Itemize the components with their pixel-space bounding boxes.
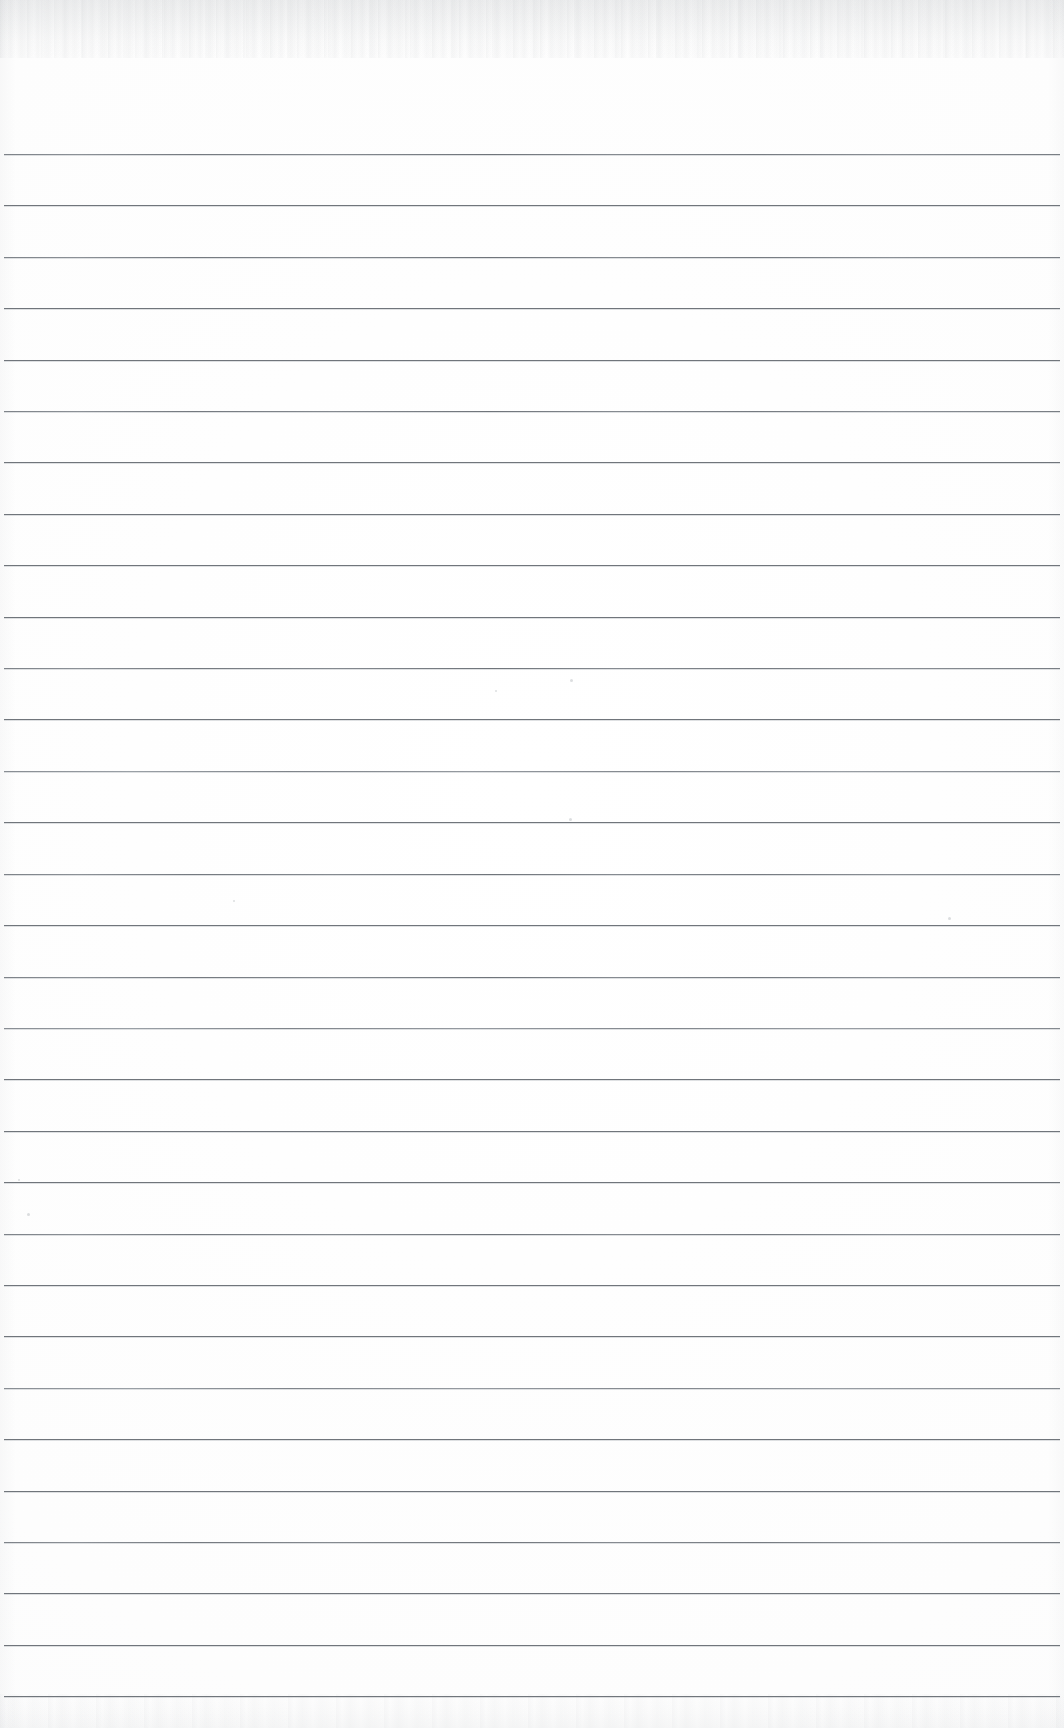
ruled-line [4, 257, 1060, 258]
ruled-line [4, 411, 1060, 412]
ruled-line [4, 308, 1060, 309]
ruled-line [4, 1079, 1060, 1080]
ruled-line [4, 1439, 1060, 1440]
ruled-line [4, 1131, 1060, 1132]
scanned-page [0, 0, 1064, 1728]
ruled-line [4, 154, 1060, 155]
ruled-line [4, 514, 1060, 515]
ruled-line [4, 1696, 1060, 1697]
ruled-line [4, 1182, 1060, 1183]
ruled-line [4, 1542, 1060, 1543]
ruled-line [4, 1234, 1060, 1235]
ruled-line [4, 1028, 1060, 1029]
ruled-line [4, 360, 1060, 361]
ruled-line [4, 977, 1060, 978]
ruled-line [4, 565, 1060, 566]
ruled-line [4, 462, 1060, 463]
ruled-line [4, 925, 1060, 926]
ruled-line [4, 719, 1060, 720]
ruled-line [4, 1491, 1060, 1492]
ruled-line [4, 617, 1060, 618]
ruled-line [4, 668, 1060, 669]
ruled-line [4, 822, 1060, 823]
ruled-line [4, 1645, 1060, 1646]
ruled-line [4, 205, 1060, 206]
ruled-line [4, 874, 1060, 875]
ruled-line [4, 1285, 1060, 1286]
ruled-lines-layer [0, 0, 1064, 1728]
ruled-line [4, 1388, 1060, 1389]
ruled-line [4, 771, 1060, 772]
ruled-line [4, 1593, 1060, 1594]
ruled-line [4, 1336, 1060, 1337]
